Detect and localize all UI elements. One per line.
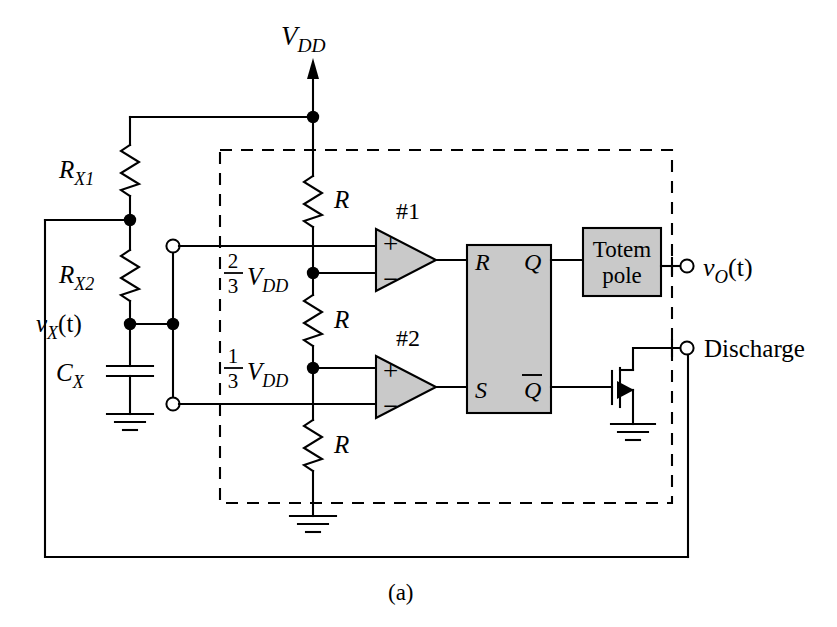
svg-text:2: 2 <box>228 249 239 273</box>
svg-text:1: 1 <box>228 344 239 368</box>
svg-text:Q: Q <box>524 377 541 403</box>
threshold-terminal-circle <box>166 239 179 252</box>
totem-pole-label-line2: pole <box>602 263 642 288</box>
rx1-label: RX1 <box>58 156 94 189</box>
cx-label: CX <box>56 359 85 392</box>
vx-label: vX(t) <box>36 310 82 343</box>
svg-text:VDD: VDD <box>247 263 288 296</box>
circuit-figure: VDD RX1 RX2 vX(t) CX <box>0 0 837 627</box>
ic-boundary-dashed-box <box>220 150 672 503</box>
svg-text:3: 3 <box>228 369 239 393</box>
totem-pole-label-line1: Totem <box>593 237 652 262</box>
comparator-1-plus-sign: + <box>383 229 398 259</box>
vdd-label: VDD <box>281 21 326 56</box>
r-upper-zigzag <box>304 176 322 227</box>
ground-symbol-divider <box>290 516 336 532</box>
comparator-2-label: #2 <box>396 325 420 351</box>
r-lower-zigzag <box>304 420 322 471</box>
output-label: vO(t) <box>703 253 753 287</box>
discharge-label: Discharge <box>704 335 805 362</box>
ground-symbol-cx <box>107 414 153 430</box>
rx2-label: RX2 <box>58 261 94 294</box>
flip-flop-q-output-label: Q <box>524 249 541 275</box>
svg-text:VDD: VDD <box>247 358 288 391</box>
mosfet-drain-to-discharge <box>633 348 682 370</box>
r-lower-label: R <box>333 431 349 458</box>
r-upper-label: R <box>333 186 349 213</box>
discharge-terminal-circle <box>680 341 693 354</box>
mosfet-channel-arrow <box>617 381 634 399</box>
flip-flop-r-input-label: R <box>474 249 490 275</box>
r-middle-zigzag <box>304 295 322 346</box>
trigger-terminal-circle <box>166 397 179 410</box>
vdd-arrow-head <box>307 58 319 79</box>
comparator-1-minus-sign: − <box>383 264 398 294</box>
output-terminal-circle <box>680 259 693 272</box>
flip-flop-qbar-output-label: Q <box>522 375 542 403</box>
rx2-resistor-zigzag <box>121 250 139 301</box>
circuit-diagram-svg: VDD RX1 RX2 vX(t) CX <box>0 0 837 627</box>
figure-caption: (a) <box>388 580 414 605</box>
comparator-2-minus-sign: − <box>383 391 398 421</box>
one-third-vdd-label: 1 3 VDD <box>224 344 288 393</box>
svg-text:3: 3 <box>228 274 239 298</box>
r-middle-label: R <box>333 306 349 333</box>
flip-flop-s-input-label: S <box>475 377 487 403</box>
ground-symbol-mosfet <box>611 424 655 440</box>
rx1-resistor-zigzag <box>121 145 139 196</box>
two-thirds-vdd-label: 2 3 VDD <box>224 249 288 298</box>
comparator-1-label: #1 <box>396 198 420 224</box>
comparator-2-plus-sign: + <box>383 356 398 386</box>
